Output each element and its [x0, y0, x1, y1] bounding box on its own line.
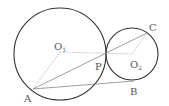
label-o1-main: O	[54, 41, 62, 52]
label-b: B	[130, 86, 137, 97]
label-o1: O1	[54, 41, 66, 53]
segment-o1a	[33, 52, 60, 89]
label-o1-sub: 1	[62, 46, 66, 53]
geometry-diagram: A B C P O1 O2	[0, 0, 169, 106]
label-a: A	[23, 93, 32, 104]
label-o2: O2	[130, 59, 142, 71]
label-o2-sub: 2	[138, 64, 142, 71]
label-c: C	[149, 22, 157, 33]
label-p: P	[95, 61, 102, 72]
segment-o1o2	[60, 52, 132, 54]
segment-o2c	[132, 33, 147, 54]
label-o2-main: O	[130, 59, 138, 70]
circle-o1	[14, 8, 106, 100]
segment-ab	[33, 81, 134, 89]
